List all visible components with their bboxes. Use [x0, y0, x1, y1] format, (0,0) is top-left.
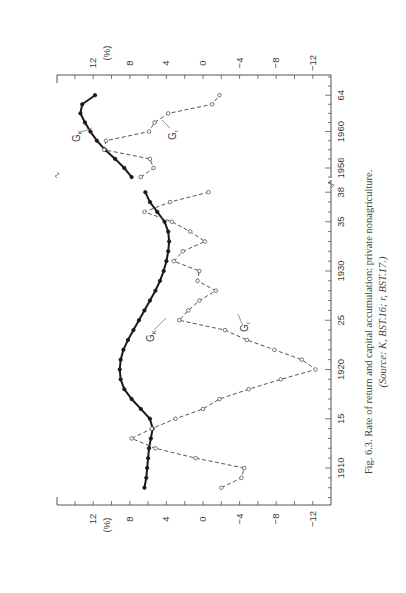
gk-marker	[81, 103, 84, 106]
gr-marker	[168, 200, 172, 204]
percent-tick-label: 12	[87, 514, 98, 525]
gk-marker	[119, 358, 122, 361]
gr-marker	[223, 328, 227, 332]
gr-marker	[198, 299, 202, 303]
gk-marker	[148, 200, 151, 203]
main-panel: 12840−4−8−12(%)19101519202519303538GKGr	[57, 180, 346, 532]
gk-marker	[95, 139, 98, 142]
gk-marker	[89, 130, 92, 133]
gr-marker	[245, 338, 249, 342]
gk-marker	[130, 175, 133, 178]
gk-marker	[122, 348, 125, 351]
gr-marker	[177, 318, 181, 322]
gk-marker	[149, 437, 152, 440]
percent-tick-label: −12	[307, 55, 318, 71]
gk-marker	[83, 121, 86, 124]
gr-marker	[104, 139, 108, 143]
gr-marker	[210, 103, 214, 107]
gk-marker	[139, 407, 142, 410]
gk-marker	[167, 240, 170, 243]
gk-marker	[126, 338, 129, 341]
gk-label-leader	[154, 318, 166, 330]
year-tick-label: 38	[335, 187, 346, 198]
percent-tick-label: −8	[270, 514, 281, 525]
axis-break-marker	[55, 172, 59, 178]
gk-marker	[130, 397, 133, 400]
gr-marker	[172, 259, 176, 263]
gr-marker	[214, 289, 218, 293]
gr-marker	[148, 157, 152, 161]
gr-marker	[247, 387, 251, 391]
gk-marker	[147, 447, 150, 450]
gr-marker	[273, 348, 277, 352]
gk-marker	[93, 94, 96, 97]
gr-marker	[139, 175, 143, 179]
gk-marker	[132, 328, 135, 331]
percent-tick-label: 8	[124, 60, 135, 65]
percent-unit-label: (%)	[101, 518, 112, 533]
figure-caption: Fig. 6.3. Rate of return and capital acc…	[363, 170, 389, 475]
percent-tick-label: 4	[160, 516, 171, 521]
gr-marker	[188, 230, 192, 234]
gr-marker	[314, 368, 318, 372]
gr-marker	[152, 166, 156, 170]
gr-marker	[143, 210, 147, 214]
series-gk-line	[80, 95, 131, 177]
gr-marker	[242, 466, 246, 470]
gr-marker	[218, 93, 222, 97]
gr-marker	[174, 417, 178, 421]
gk-marker	[156, 210, 159, 213]
gk-label: GK	[71, 130, 83, 142]
gr-marker	[220, 486, 224, 490]
gk-marker	[148, 417, 151, 420]
gr-marker	[170, 220, 174, 224]
series-gr-line	[132, 192, 316, 488]
gk-marker	[158, 279, 161, 282]
year-tick-label: 25	[335, 315, 346, 326]
year-tick-label: 1920	[335, 359, 346, 380]
gk-marker	[145, 476, 148, 479]
gr-marker	[240, 476, 244, 480]
percent-tick-label: −12	[307, 511, 318, 527]
gr-label: Gr	[239, 322, 251, 332]
gr-marker	[203, 240, 207, 244]
gk-marker	[143, 309, 146, 312]
gr-marker	[196, 279, 200, 283]
gr-marker	[102, 148, 106, 152]
gr-marker	[194, 456, 198, 460]
gr-marker	[198, 269, 202, 273]
year-tick-label: 35	[335, 216, 346, 227]
gr-marker	[166, 112, 170, 116]
gk-marker	[119, 378, 122, 381]
gk-marker	[143, 486, 146, 489]
gr-marker	[150, 427, 154, 431]
caption-line-1: Fig. 6.3. Rate of return and capital acc…	[363, 170, 374, 475]
percent-tick-label: 8	[124, 516, 135, 521]
percent-tick-label: 0	[197, 60, 208, 65]
year-tick-label: 1956	[335, 157, 346, 178]
gk-marker	[145, 466, 148, 469]
gk-marker	[148, 299, 151, 302]
percent-tick-label: −4	[234, 514, 245, 525]
gk-marker	[154, 289, 157, 292]
gr-label-leader	[162, 120, 170, 128]
gr-marker	[218, 397, 222, 401]
percent-tick-label: 12	[87, 58, 98, 69]
gr-marker	[279, 378, 283, 382]
gr-marker	[154, 447, 158, 451]
gr-marker	[153, 121, 157, 125]
year-tick-label: 64	[335, 90, 346, 101]
gk-marker	[167, 230, 170, 233]
gk-marker	[79, 112, 82, 115]
gr-marker	[187, 309, 191, 313]
gk-marker	[165, 259, 168, 262]
gr-marker	[181, 250, 185, 254]
gk-marker	[163, 220, 166, 223]
chart-canvas: 12840−4−8−12(%)19101519202519303538GKGr …	[0, 0, 406, 593]
gk-marker	[146, 456, 149, 459]
year-tick-label: 1910	[335, 457, 346, 478]
gr-marker	[300, 358, 304, 362]
gk-marker	[167, 250, 170, 253]
year-tick-label: 15	[335, 413, 346, 424]
gk-marker	[118, 368, 121, 371]
